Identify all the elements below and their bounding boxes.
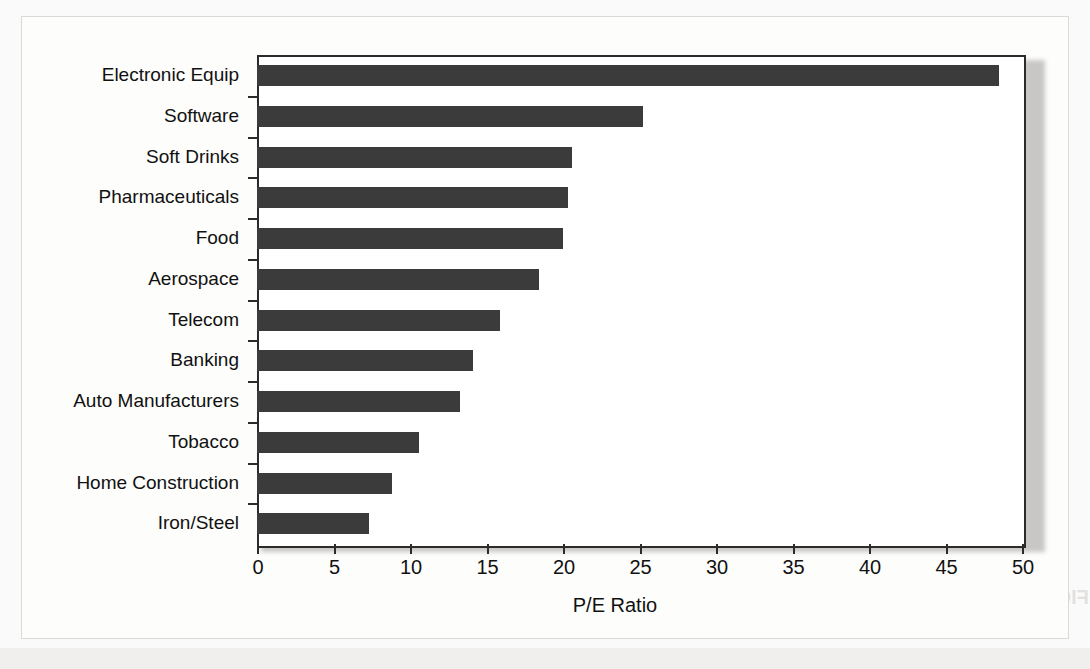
x-axis-tick-label: 20 [553,556,575,579]
x-axis-tick-label: 25 [629,556,651,579]
y-axis-tick [248,218,258,220]
x-axis-title: P/E Ratio [21,594,1069,617]
category-axis-labels: Electronic EquipSoftwareSoft DrinksPharm… [21,55,253,544]
bar [257,473,392,494]
bar-row [257,422,1022,463]
category-label: Software [164,96,239,137]
x-axis-tick [869,544,871,554]
x-axis-tick [793,544,795,554]
x-axis-tick-label: 30 [706,556,728,579]
x-axis-tick-label: 50 [1012,556,1034,579]
pe-ratio-bar-chart: Electronic EquipSoftwareSoft DrinksPharm… [21,16,1069,639]
x-axis-tick [716,544,718,554]
x-axis-tick [257,544,259,554]
bar-row [257,503,1022,544]
bar [257,269,539,290]
bar-row [257,55,1022,96]
x-axis-tick-label: 35 [782,556,804,579]
bar-series [257,55,1022,544]
bar [257,391,460,412]
bar-row [257,137,1022,178]
bar [257,513,369,534]
x-axis-tick [487,544,489,554]
x-axis-tick [563,544,565,554]
category-label: Tobacco [168,422,239,463]
bar-row [257,340,1022,381]
category-label: Food [196,218,239,259]
x-axis-tick-label: 10 [400,556,422,579]
category-label: Pharmaceuticals [99,177,239,218]
y-axis-tick [248,96,258,98]
bar [257,65,999,86]
x-axis-tick-label: 40 [859,556,881,579]
category-label: Telecom [168,300,239,341]
bar-row [257,218,1022,259]
category-label: Iron/Steel [158,503,239,544]
y-axis-tick [248,177,258,179]
bar-row [257,463,1022,504]
x-axis-tick [1022,544,1024,554]
x-axis-tick-label: 45 [935,556,957,579]
y-axis-tick [248,259,258,261]
bar-row [257,259,1022,300]
y-axis-tick [248,381,258,383]
y-axis-tick [248,340,258,342]
bar [257,228,563,249]
y-axis-tick [248,463,258,465]
category-label: Aerospace [148,259,239,300]
category-label: Auto Manufacturers [73,381,239,422]
category-label: Home Construction [76,463,239,504]
y-axis-tick [248,503,258,505]
bar-row [257,177,1022,218]
category-label: Soft Drinks [146,137,239,178]
bar [257,106,643,127]
y-axis-tick [248,300,258,302]
x-axis-tick [946,544,948,554]
x-axis-tick [410,544,412,554]
scanned-page: United Rental FIGURE 16.5 Price–earnings… [0,0,1090,669]
bar [257,432,419,453]
y-axis-tick [248,137,258,139]
x-axis-tick-label: 0 [252,556,263,579]
category-label: Electronic Equip [102,55,239,96]
bar [257,187,568,208]
x-axis-tick-label: 5 [329,556,340,579]
bar [257,310,500,331]
bar-row [257,300,1022,341]
bar [257,147,572,168]
bar [257,350,473,371]
x-axis-tick [640,544,642,554]
y-axis-tick [248,422,258,424]
x-axis-tick-label: 15 [476,556,498,579]
x-axis-tick [334,544,336,554]
bar-row [257,381,1022,422]
category-label: Banking [170,340,239,381]
bar-row [257,96,1022,137]
